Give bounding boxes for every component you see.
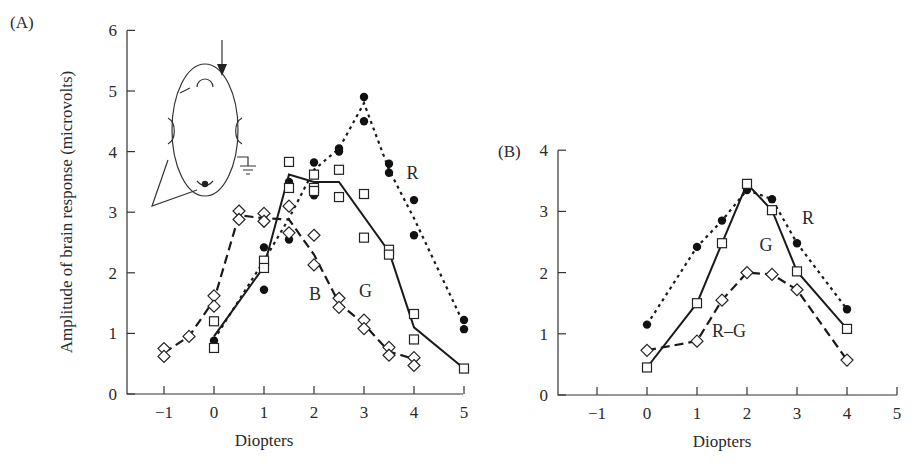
marker-filled-circle	[260, 243, 268, 251]
x-tick-label: −1	[155, 403, 173, 422]
marker-filled-circle	[385, 160, 393, 168]
y-axis-label: Amplitude of brain response (microvolts)	[57, 71, 76, 353]
marker-filled-circle	[768, 195, 776, 203]
marker-open-square	[385, 250, 394, 259]
nose-icon	[197, 79, 213, 87]
figure: 0123456−1012345DioptersAmplitude of brai…	[0, 0, 920, 475]
x-tick-label: 0	[210, 403, 219, 422]
marker-open-square	[260, 263, 269, 272]
marker-open-square	[768, 206, 777, 215]
marker-open-diamond	[333, 301, 345, 313]
marker-filled-circle	[335, 147, 343, 155]
y-tick-label: 6	[109, 21, 118, 40]
marker-open-square	[310, 186, 319, 195]
marker-open-diamond	[766, 268, 778, 280]
electrode-lead	[152, 160, 197, 206]
marker-open-diamond	[383, 349, 395, 361]
x-tick-label: 5	[893, 404, 902, 423]
marker-filled-circle	[410, 196, 418, 204]
x-tick-label: 2	[310, 403, 319, 422]
marker-filled-circle	[385, 169, 393, 177]
y-tick-label: 0	[540, 386, 549, 405]
marker-filled-circle	[693, 243, 701, 251]
panel-label: (B)	[498, 142, 521, 161]
marker-filled-circle	[310, 158, 318, 166]
x-tick-label: 2	[743, 404, 752, 423]
panel-a-chart: 0123456−1012345DioptersAmplitude of brai…	[10, 13, 469, 450]
series-label: R	[802, 208, 814, 228]
y-tick-label: 1	[540, 325, 549, 344]
y-tick-label: 3	[540, 202, 549, 221]
marker-open-diamond	[158, 350, 170, 362]
marker-filled-circle	[260, 286, 268, 294]
marker-open-square	[335, 165, 344, 174]
x-tick-label: −1	[588, 404, 606, 423]
marker-open-diamond	[408, 360, 420, 372]
marker-filled-circle	[793, 239, 801, 247]
x-axis-label: Diopters	[235, 431, 294, 450]
marker-open-square	[310, 170, 319, 179]
series-line-r	[647, 190, 847, 325]
y-tick-label: 2	[540, 264, 549, 283]
x-tick-label: 3	[793, 404, 802, 423]
series-label: G	[760, 235, 773, 255]
y-tick-label: 5	[109, 82, 118, 101]
y-tick-label: 0	[109, 385, 118, 404]
series-line-g	[214, 175, 464, 369]
left-ear-icon	[168, 118, 174, 144]
series-label: R	[407, 163, 419, 183]
x-tick-label: 1	[260, 403, 269, 422]
marker-open-square	[718, 239, 727, 248]
marker-open-diamond	[691, 335, 703, 347]
marker-filled-circle	[460, 316, 468, 324]
marker-open-square	[793, 267, 802, 276]
marker-open-diamond	[208, 300, 220, 312]
panel-label: (A)	[10, 13, 34, 32]
series-label: G	[359, 281, 372, 301]
marker-open-diamond	[233, 213, 245, 225]
series-label: B	[309, 284, 321, 304]
eye-mark	[180, 88, 190, 93]
electrode-icon	[202, 181, 208, 187]
marker-open-diamond	[283, 227, 295, 239]
x-tick-label: 4	[410, 403, 419, 422]
y-tick-label: 4	[109, 143, 118, 162]
marker-open-diamond	[283, 200, 295, 212]
x-tick-label: 3	[360, 403, 369, 422]
marker-filled-circle	[643, 320, 651, 328]
marker-open-square	[360, 233, 369, 242]
y-tick-label: 2	[109, 264, 118, 283]
marker-open-diamond	[308, 259, 320, 271]
marker-open-square	[843, 324, 852, 333]
panel-b-chart: 01234−1012345Diopters(B)RGR–G	[498, 141, 901, 451]
x-tick-label: 5	[460, 403, 469, 422]
marker-filled-circle	[410, 231, 418, 239]
marker-open-diamond	[308, 229, 320, 241]
x-tick-label: 1	[693, 404, 702, 423]
x-axis-label: Diopters	[693, 432, 752, 451]
y-tick-label: 4	[540, 141, 549, 160]
head-diagram-icon	[152, 40, 256, 206]
marker-open-square	[460, 364, 469, 373]
marker-filled-circle	[718, 216, 726, 224]
marker-filled-circle	[360, 117, 368, 125]
head-outline	[172, 64, 238, 196]
marker-open-diamond	[641, 344, 653, 356]
marker-open-square	[693, 299, 702, 308]
marker-open-square	[285, 157, 294, 166]
marker-open-square	[335, 193, 344, 202]
marker-open-square	[410, 335, 419, 344]
y-tick-label: 3	[109, 203, 118, 222]
y-tick-label: 1	[109, 324, 118, 343]
marker-open-square	[210, 317, 219, 326]
marker-open-square	[743, 179, 752, 188]
marker-open-square	[360, 190, 369, 199]
marker-open-square	[643, 363, 652, 372]
ground-icon	[237, 157, 256, 174]
x-tick-label: 0	[643, 404, 652, 423]
right-ear-icon	[236, 118, 242, 144]
marker-filled-circle	[843, 305, 851, 313]
marker-open-diamond	[358, 323, 370, 335]
series-line-rg	[647, 273, 847, 361]
x-tick-label: 4	[843, 404, 852, 423]
